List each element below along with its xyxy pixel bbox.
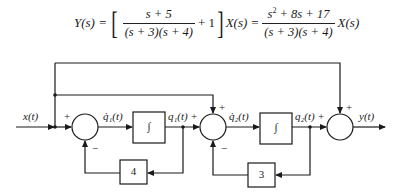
feedforward-mid-line <box>55 95 213 113</box>
integrator-2-symbol: ∫ <box>260 121 292 133</box>
q1-label: q₁(t) <box>168 110 188 122</box>
block-diagram <box>0 0 403 195</box>
branch-point-q2 <box>308 125 312 129</box>
summing-junction-3 <box>327 114 353 140</box>
integrator-1-symbol: ∫ <box>133 120 165 132</box>
sum2-plus-left-sign: + <box>191 110 197 122</box>
summing-junction-1 <box>72 114 98 140</box>
branch-point-q1 <box>181 125 185 129</box>
sum3-plus-top-sign: + <box>346 101 352 113</box>
q2-dot-label: q̇₂(t) <box>229 110 249 122</box>
output-label: y(t) <box>359 110 374 122</box>
summing-junction-2 <box>200 114 226 140</box>
feedback-1-return <box>85 141 120 173</box>
sum1-minus-sign: − <box>92 142 98 154</box>
input-label: x(t) <box>23 110 38 122</box>
sum1-plus-sign: + <box>64 110 70 122</box>
feedback-2-line <box>276 127 310 175</box>
sum2-minus-sign: − <box>221 142 227 154</box>
gain-3-label: 3 <box>248 168 275 180</box>
sum2-plus-top-sign: + <box>219 101 225 113</box>
branch-point-input <box>53 125 57 129</box>
feedforward-top-line <box>55 63 340 113</box>
branch-point-mid <box>53 93 57 97</box>
feedback-2-return <box>213 141 248 175</box>
sum3-plus-left-sign: + <box>318 110 324 122</box>
q2-label: q₂(t) <box>295 110 315 122</box>
gain-4-label: 4 <box>120 165 147 177</box>
q1-dot-label: q̇₁(t) <box>103 110 123 122</box>
